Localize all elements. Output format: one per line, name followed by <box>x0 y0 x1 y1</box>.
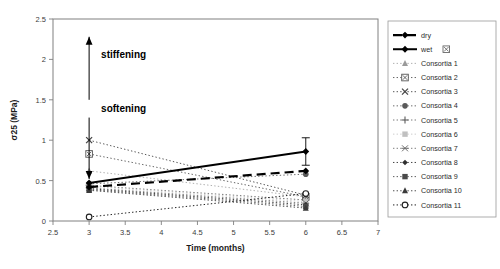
annotation-arrow-head <box>86 171 93 179</box>
legend-label: Consortia 3 <box>421 87 458 96</box>
data-point-marker <box>302 148 309 155</box>
x-tick-label: 6 <box>304 228 308 237</box>
annotation-label-softening: softening <box>101 103 146 114</box>
legend-label: Consortia 4 <box>421 101 458 110</box>
x-tick-label: 7 <box>376 228 380 237</box>
series-line <box>89 152 306 184</box>
legend-label: Consortia 1 <box>421 59 458 68</box>
series-consortia-10 <box>86 187 309 211</box>
legend-label: Consortia 5 <box>421 116 458 125</box>
y-tick-label: 1 <box>42 136 46 145</box>
x-tick-label: 4 <box>159 228 163 237</box>
x-tick-label: 6.5 <box>337 228 347 237</box>
y-tick-label: 2 <box>42 55 46 64</box>
x-tick-label: 4.5 <box>192 228 202 237</box>
legend-label: Consortia 7 <box>421 144 458 153</box>
annotation-arrow-head <box>86 37 93 45</box>
chart-figure: 2.533.544.555.566.5700.511.522.5Time (mo… <box>0 0 500 269</box>
x-tick-label: 5 <box>231 228 235 237</box>
x-tick-label: 5.5 <box>264 228 274 237</box>
y-tick-label: 0.5 <box>36 177 46 186</box>
x-tick-label: 3 <box>87 228 91 237</box>
series-consortia-11 <box>86 191 308 220</box>
annotation-label-stiffening: stiffening <box>101 49 146 60</box>
stress-vs-time-line-chart: 2.533.544.555.566.5700.511.522.5Time (mo… <box>0 0 500 269</box>
legend-label: Consortia 11 <box>421 201 461 210</box>
series-consortia-9 <box>86 187 308 209</box>
data-point-marker <box>402 131 407 136</box>
legend-label: Consortia 9 <box>421 172 458 181</box>
x-tick-label: 3.5 <box>120 228 130 237</box>
data-point-marker <box>402 174 407 179</box>
y-tick-label: 1.5 <box>36 96 46 105</box>
x-axis-title: Time (months) <box>186 243 245 253</box>
series-consortia-6 <box>86 184 308 205</box>
legend-label: Consortia 6 <box>421 130 458 139</box>
legend-label: dry <box>421 31 431 40</box>
y-tick-label: 0 <box>42 217 46 226</box>
data-point-marker <box>402 202 408 208</box>
data-point-marker <box>402 103 408 109</box>
legend-label: Consortia 8 <box>421 158 458 167</box>
data-point-marker <box>303 191 309 197</box>
y-tick-label: 2.5 <box>36 15 46 24</box>
legend-label: wet <box>420 45 432 54</box>
y-axis-title: σ25 (MPa) <box>9 99 19 140</box>
data-point-marker <box>86 214 92 220</box>
legend-label: Consortia 10 <box>421 186 462 195</box>
legend-item-consortia-2[interactable]: Consortia 2 <box>393 73 458 82</box>
series-line <box>89 189 306 205</box>
x-tick-label: 2.5 <box>48 228 58 237</box>
legend-label: Consortia 2 <box>421 73 458 82</box>
